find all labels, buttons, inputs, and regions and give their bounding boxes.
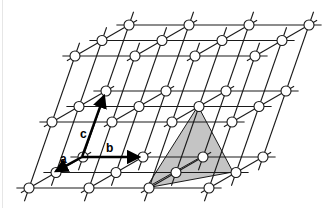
lattice-node (167, 117, 177, 127)
lattice-node (97, 36, 107, 46)
lattice-node (157, 36, 167, 46)
vector-label-c: c (80, 127, 87, 141)
lattice-node (74, 102, 84, 112)
lattice-node (198, 152, 208, 162)
lattice-node (70, 51, 80, 61)
lattice-node (281, 86, 291, 96)
lattice-node (124, 20, 134, 30)
lattice-node (204, 183, 214, 193)
lattice-node (244, 20, 254, 30)
lattice-node (47, 117, 57, 127)
lattice-node (190, 51, 200, 61)
tetrahedron-shading (146, 106, 233, 188)
tetrahedron-face (146, 106, 233, 188)
lattice-node (221, 86, 231, 96)
lattice-node (250, 51, 260, 61)
lattice-node (227, 117, 237, 127)
lattice-node (184, 20, 194, 30)
lattice-node (134, 102, 144, 112)
lattice-node (138, 152, 148, 162)
vector-label-a: a (60, 152, 67, 166)
lattice-node (254, 102, 264, 112)
lattice-node (258, 152, 268, 162)
lattice-node (161, 86, 171, 96)
crystal-lattice-diagram: c b a (0, 0, 333, 208)
lattice-node (84, 183, 94, 193)
lattice-lines (16, 12, 321, 201)
lattice-node (194, 102, 204, 112)
unit-cell-vectors (56, 96, 139, 171)
lattice-node (277, 36, 287, 46)
lattice-node (171, 168, 181, 178)
lattice-node (217, 36, 227, 46)
lattice-node (111, 168, 121, 178)
lattice-node (130, 51, 140, 61)
lattice-node (24, 183, 34, 193)
lattice-node (304, 20, 314, 30)
lattice-node (231, 168, 241, 178)
vector-label-b: b (106, 141, 113, 155)
lattice-node (101, 86, 111, 96)
lattice-node (144, 183, 154, 193)
lattice-node (107, 117, 117, 127)
